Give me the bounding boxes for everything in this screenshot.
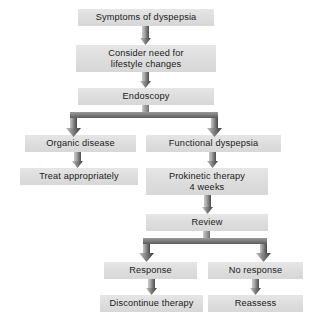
flowchart-canvas: Symptoms of dyspepsia Consider need for … xyxy=(0,0,330,321)
arrow-down-icon-noresponse-to-reassess xyxy=(250,279,261,295)
fork-connector-review xyxy=(0,0,330,321)
arrow-down-icon-response-to-discontinue xyxy=(146,279,157,295)
